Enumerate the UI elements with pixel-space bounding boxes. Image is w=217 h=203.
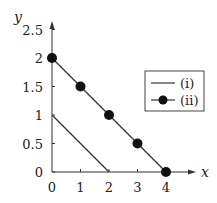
data-point bbox=[76, 82, 86, 92]
x-ticks: 0 1 2 3 4 bbox=[48, 169, 170, 195]
data-point bbox=[133, 139, 143, 149]
data-point bbox=[47, 53, 57, 63]
y-tick-label: 2.5 bbox=[22, 23, 43, 38]
y-tick-label: 0 bbox=[35, 165, 43, 180]
data-point bbox=[161, 167, 171, 177]
y-tick-label: 2 bbox=[35, 51, 43, 66]
x-axis-label: x bbox=[201, 164, 209, 180]
x-axis-arrow-icon bbox=[188, 170, 196, 175]
y-tick-label: 1 bbox=[35, 108, 43, 123]
y-tick-label: 1.5 bbox=[22, 80, 43, 95]
y-ticks: 0 0.5 1 1.5 2 2.5 bbox=[22, 23, 55, 181]
x-tick-label: 2 bbox=[105, 180, 113, 195]
x-tick-label: 3 bbox=[133, 180, 141, 195]
chart: y x 0 0.5 1 1.5 2 2.5 0 1 2 3 4 bbox=[0, 0, 217, 203]
legend-label: (ii) bbox=[180, 93, 198, 108]
x-tick-label: 4 bbox=[162, 180, 170, 195]
x-tick-label: 0 bbox=[48, 180, 56, 195]
series-i-line bbox=[52, 115, 109, 172]
x-tick-label: 1 bbox=[76, 180, 84, 195]
legend-dot-icon bbox=[159, 96, 168, 105]
legend-label: (i) bbox=[180, 76, 194, 91]
y-tick-label: 0.5 bbox=[22, 137, 43, 152]
legend: (i) (ii) bbox=[145, 71, 204, 111]
y-axis-arrow-icon bbox=[50, 21, 55, 29]
data-point bbox=[104, 110, 114, 120]
